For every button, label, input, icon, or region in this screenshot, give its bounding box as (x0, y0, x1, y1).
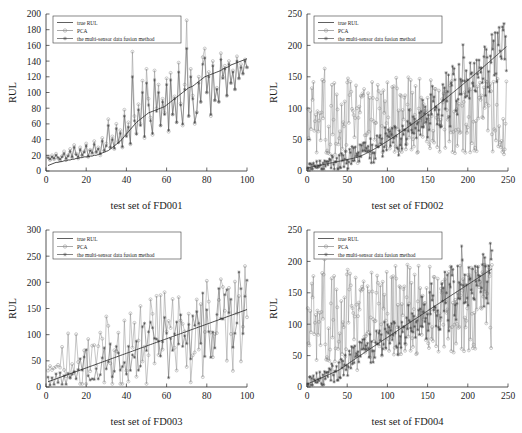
x-tick-label: 20 (81, 175, 91, 185)
chart-svg-fd004: 050100150200250050100150200250test set o… (261, 216, 522, 433)
x-tick-label: 150 (420, 391, 435, 401)
x-tick-label: 0 (305, 175, 310, 185)
x-tick-label: 200 (461, 391, 476, 401)
y-tick-label: 200 (288, 41, 303, 51)
chart-panel-fd001: 020406080100020406080100120140160180200t… (0, 0, 261, 217)
y-tick-label: 40 (32, 135, 42, 145)
legend-marker-asterisk (324, 37, 328, 41)
chart-svg-fd001: 020406080100020406080100120140160180200t… (0, 0, 261, 217)
x-tick-label: 80 (202, 175, 212, 185)
legend-label-fusion: the multi-sensor data fusion method (77, 252, 155, 258)
legend-fd004: true RULPCAthe multi-sensor data fusion … (314, 232, 442, 259)
y-tick-label: 0 (297, 382, 302, 392)
y-tick-label: 200 (27, 278, 42, 288)
chart-panel-fd004: 050100150200250050100150200250test set o… (261, 216, 522, 433)
y-tick-label: 0 (36, 382, 41, 392)
y-tick-label: 300 (27, 225, 42, 235)
y-tick-label: 60 (32, 119, 42, 129)
x-tick-label: 100 (380, 391, 395, 401)
y-tick-label: 150 (27, 304, 42, 314)
y-tick-label: 120 (27, 72, 42, 82)
x-tick-label: 60 (162, 175, 172, 185)
rul-comparison-figure: 020406080100020406080100120140160180200t… (0, 0, 522, 433)
y-tick-label: 100 (288, 320, 303, 330)
x-axis-title-fd004: test set of FD004 (371, 416, 444, 427)
x-tick-label: 200 (461, 175, 476, 185)
x-tick-label: 150 (420, 175, 435, 185)
y-tick-label: 50 (293, 135, 303, 145)
legend-label-fusion: the multi-sensor data fusion method (338, 36, 416, 42)
x-axis-title-fd001: test set of FD001 (110, 200, 182, 211)
y-tick-label: 100 (288, 104, 303, 114)
chart-svg-fd002: 050100150200250050100150200250test set o… (261, 0, 522, 217)
x-tick-label: 40 (122, 391, 132, 401)
y-axis-title-fd001: RUL (7, 82, 18, 103)
y-tick-label: 180 (27, 25, 42, 35)
legend-label-fusion: the multi-sensor data fusion method (338, 252, 416, 258)
x-axis-title-fd003: test set of FD003 (110, 416, 182, 427)
y-tick-label: 0 (297, 166, 302, 176)
y-tick-label: 80 (32, 104, 42, 114)
plot-area-fd004 (306, 242, 493, 387)
legend-marker-asterisk (63, 37, 67, 41)
y-tick-label: 100 (27, 330, 42, 340)
legend-label-pca: PCA (338, 28, 349, 34)
legend-label-pca: PCA (338, 244, 349, 250)
x-tick-label: 80 (202, 391, 212, 401)
y-axis-title-fd002: RUL (268, 82, 279, 103)
legend-label-pca: PCA (77, 28, 88, 34)
y-tick-label: 50 (32, 356, 42, 366)
series-pca-fd003 (47, 265, 249, 386)
y-tick-label: 150 (288, 288, 303, 298)
legend-label-true: true RUL (338, 20, 359, 26)
y-tick-label: 150 (288, 72, 303, 82)
x-tick-label: 0 (44, 175, 49, 185)
chart-panel-fd003: 020406080100050100150200250300test set o… (0, 216, 261, 433)
x-tick-label: 50 (342, 391, 352, 401)
x-tick-label: 100 (380, 175, 395, 185)
y-tick-label: 0 (36, 166, 41, 176)
x-tick-label: 50 (342, 175, 352, 185)
legend-fd003: true RULPCAthe multi-sensor data fusion … (53, 232, 181, 259)
series-pca-fd002 (306, 67, 508, 164)
x-tick-label: 60 (162, 391, 172, 401)
legend-marker-asterisk (324, 253, 328, 257)
y-tick-label: 50 (293, 351, 303, 361)
legend-label-true: true RUL (77, 20, 98, 26)
x-tick-label: 100 (240, 175, 255, 185)
x-tick-label: 20 (81, 391, 91, 401)
chart-panel-fd002: 050100150200250050100150200250test set o… (261, 0, 522, 217)
x-axis-title-fd002: test set of FD002 (371, 200, 443, 211)
chart-svg-fd003: 020406080100050100150200250300test set o… (0, 216, 261, 433)
y-tick-label: 20 (32, 151, 42, 161)
legend-label-true: true RUL (338, 236, 359, 242)
series-fusion-fd001 (46, 47, 248, 161)
x-tick-label: 0 (305, 391, 310, 401)
legend-label-true: true RUL (77, 236, 98, 242)
y-axis-title-fd004: RUL (268, 298, 279, 319)
y-tick-label: 140 (27, 57, 42, 67)
plot-area-fd003 (46, 265, 248, 387)
y-axis-title-fd003: RUL (7, 298, 18, 319)
y-tick-label: 200 (27, 9, 42, 19)
x-tick-label: 100 (240, 391, 255, 401)
y-tick-label: 250 (27, 252, 42, 262)
y-tick-label: 160 (27, 41, 42, 51)
legend-fd001: true RULPCAthe multi-sensor data fusion … (53, 16, 181, 43)
x-tick-label: 0 (44, 391, 49, 401)
y-tick-label: 100 (27, 88, 42, 98)
x-tick-label: 250 (501, 175, 516, 185)
x-tick-label: 250 (501, 391, 516, 401)
y-tick-label: 250 (288, 9, 303, 19)
y-tick-label: 200 (288, 257, 303, 267)
y-tick-label: 250 (288, 225, 303, 235)
x-tick-label: 40 (122, 175, 132, 185)
legend-label-pca: PCA (77, 244, 88, 250)
series-true-fd001 (48, 59, 247, 166)
legend-fd002: true RULPCAthe multi-sensor data fusion … (314, 16, 442, 43)
plot-area-fd002 (306, 22, 508, 171)
legend-label-fusion: the multi-sensor data fusion method (77, 36, 155, 42)
